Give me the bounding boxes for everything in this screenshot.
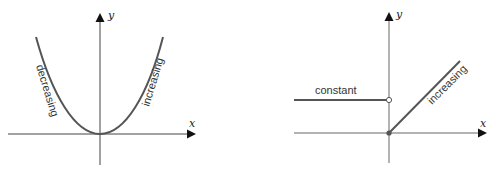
x-axis-label: x: [480, 117, 487, 130]
parabola-graph: x y decreasing increasing: [8, 9, 196, 165]
y-axis-label: y: [395, 8, 403, 21]
function-graphs: x y decreasing increasing x y constant i…: [0, 0, 490, 179]
constant-label: constant: [315, 84, 357, 96]
open-endpoint-icon: [386, 97, 391, 102]
increasing-label: increasing: [139, 56, 165, 107]
y-axis-arrow-icon: [385, 12, 394, 21]
x-axis-label: x: [189, 117, 196, 130]
x-axis-arrow-icon: [187, 130, 196, 139]
closed-endpoint-icon: [386, 130, 391, 135]
increasing-label: increasing: [425, 62, 469, 106]
decreasing-label: decreasing: [34, 63, 61, 118]
y-axis-arrow-icon: [96, 13, 105, 22]
piecewise-graph: x y constant increasing: [294, 8, 487, 163]
y-axis-label: y: [107, 9, 115, 22]
